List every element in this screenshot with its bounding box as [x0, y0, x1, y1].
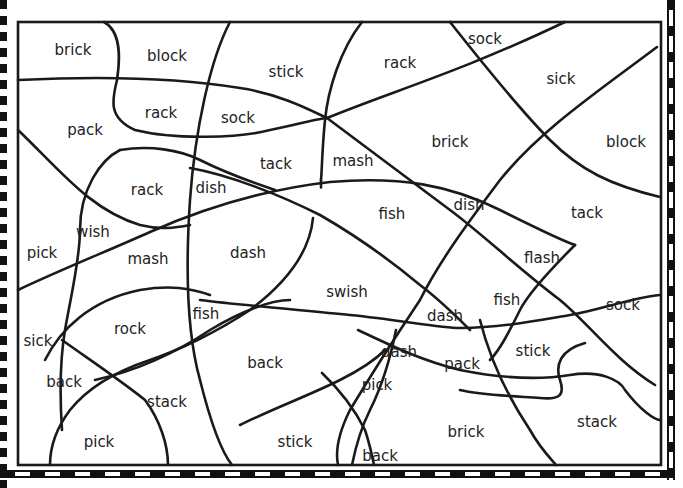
region-word-rack: rack — [384, 54, 417, 72]
region-word-swish: swish — [326, 283, 368, 301]
puzzle-canvas: brickblockstickracksocksickracksockpackb… — [0, 0, 683, 488]
region-word-mash: mash — [127, 250, 168, 268]
region-word-pick: pick — [84, 433, 115, 451]
region-word-stick: stick — [278, 433, 313, 451]
region-word-tack: tack — [571, 204, 603, 222]
region-word-back: back — [247, 354, 283, 372]
region-word-pack: pack — [444, 355, 480, 373]
region-word-rock: rock — [114, 320, 146, 338]
region-lines — [18, 22, 660, 465]
region-word-fish: fish — [193, 305, 220, 323]
region-word-tack: tack — [260, 155, 292, 173]
region-word-sock: sock — [468, 30, 502, 48]
region-word-dash: dash — [381, 343, 417, 361]
region-word-flash: flash — [524, 249, 560, 267]
region-word-stick: stick — [269, 63, 304, 81]
region-word-pick: pick — [27, 244, 58, 262]
region-word-dash: dash — [427, 307, 463, 325]
region-word-pack: pack — [67, 121, 103, 139]
region-word-brick: brick — [448, 423, 485, 441]
region-word-sick: sick — [547, 70, 576, 88]
region-word-mash: mash — [332, 152, 373, 170]
region-word-stack: stack — [577, 413, 617, 431]
region-word-back: back — [46, 373, 82, 391]
region-word-wish: wish — [76, 223, 110, 241]
region-word-rack: rack — [131, 181, 164, 199]
region-word-block: block — [147, 47, 187, 65]
region-word-brick: brick — [55, 41, 92, 59]
region-word-dash: dash — [230, 244, 266, 262]
region-word-stack: stack — [147, 393, 187, 411]
region-word-brick: brick — [432, 133, 469, 151]
region-word-rack: rack — [145, 104, 178, 122]
region-word-back: back — [362, 447, 398, 465]
region-word-sock: sock — [606, 296, 640, 314]
region-word-block: block — [606, 133, 646, 151]
region-word-pick: pick — [362, 376, 393, 394]
region-word-sick: sick — [24, 332, 53, 350]
coloring-worksheet: brickblockstickracksocksickracksockpackb… — [0, 0, 683, 488]
region-word-fish: fish — [494, 291, 521, 309]
region-word-dish: dish — [453, 196, 484, 214]
region-word-dish: dish — [195, 179, 226, 197]
region-word-fish: fish — [379, 205, 406, 223]
region-word-sock: sock — [221, 109, 255, 127]
region-word-stick: stick — [516, 342, 551, 360]
